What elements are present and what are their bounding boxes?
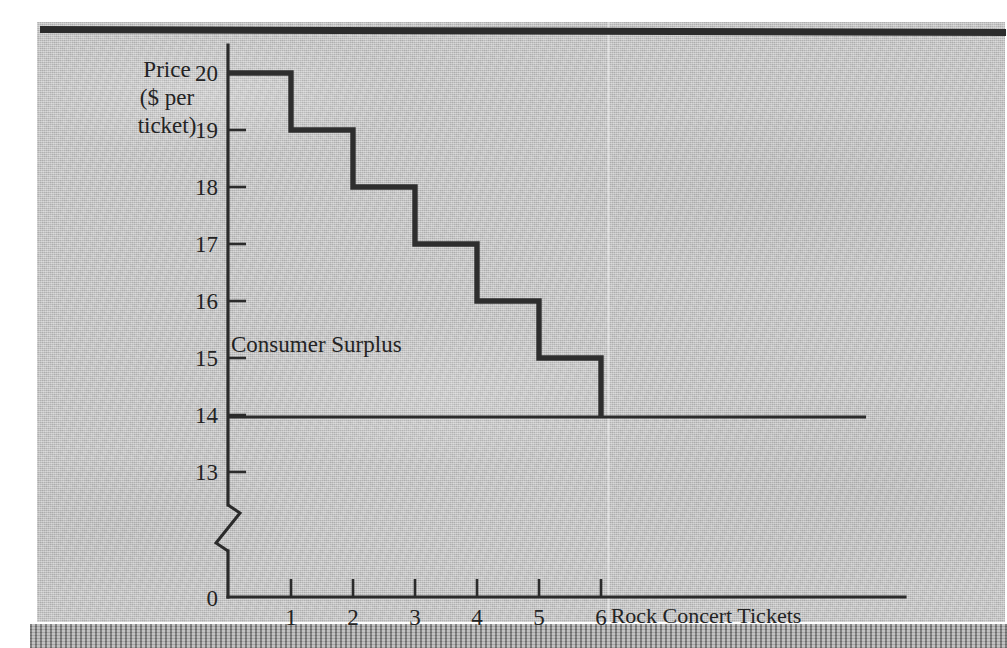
x-tick-label-6: 6 xyxy=(595,605,607,630)
x-axis-title: Rock Concert Tickets xyxy=(611,603,802,628)
x-tick-label-3: 3 xyxy=(409,605,421,630)
x-tick-label-1: 1 xyxy=(285,605,297,630)
y-tick-label-19: 19 xyxy=(195,118,218,143)
consumer-surplus-chart: 20 19 18 17 16 15 14 13 0 1 2 3 4 5 6 Pr… xyxy=(0,0,1007,648)
x-axis-tick-marks xyxy=(291,579,601,597)
y-tick-label-13: 13 xyxy=(195,460,218,485)
y-axis-title: Price ($ per ticket) xyxy=(138,57,197,138)
y-axis-tick-marks xyxy=(228,73,246,472)
y-tick-label-20: 20 xyxy=(195,61,218,86)
y-tick-label-18: 18 xyxy=(195,175,218,200)
figure-container: 20 19 18 17 16 15 14 13 0 1 2 3 4 5 6 Pr… xyxy=(0,0,1007,648)
x-tick-label-4: 4 xyxy=(471,605,483,630)
y-axis-title-line-1: Price xyxy=(143,57,190,82)
y-axis-tick-labels: 20 19 18 17 16 15 14 13 0 xyxy=(195,61,219,611)
y-axis-break-zigzag xyxy=(216,505,240,551)
y-tick-label-14: 14 xyxy=(195,403,219,428)
x-axis-tick-labels: 1 2 3 4 5 6 xyxy=(285,605,607,630)
y-tick-label-17: 17 xyxy=(195,232,218,257)
demand-step-curve xyxy=(228,73,601,417)
y-axis-title-line-2: ($ per xyxy=(140,85,195,110)
y-tick-label-15: 15 xyxy=(195,346,218,371)
x-tick-label-2: 2 xyxy=(347,605,359,630)
y-axis-origin-label: 0 xyxy=(207,586,219,611)
y-axis xyxy=(216,45,240,597)
consumer-surplus-annotation: Consumer Surplus xyxy=(231,332,402,357)
y-axis-title-line-3: ticket) xyxy=(138,113,197,138)
y-tick-label-16: 16 xyxy=(195,289,218,314)
x-tick-label-5: 5 xyxy=(533,605,545,630)
